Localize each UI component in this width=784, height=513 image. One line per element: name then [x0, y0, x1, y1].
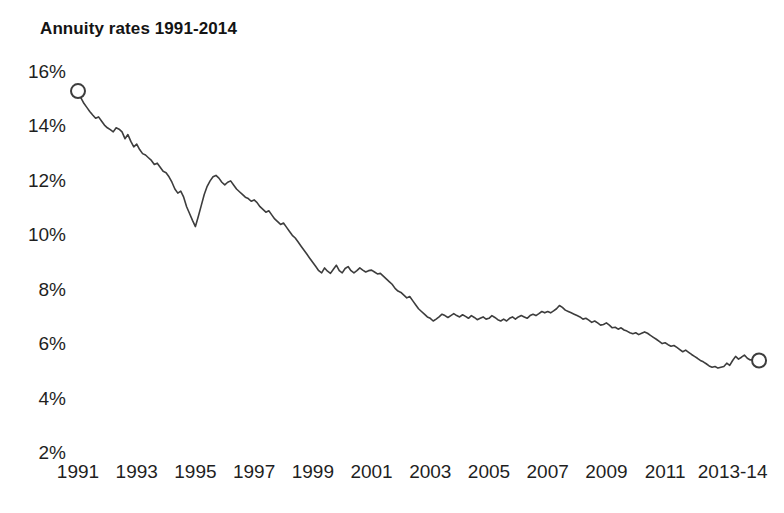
plot-area — [0, 0, 784, 513]
series-start-marker — [71, 84, 85, 98]
annuity-rates-chart: Annuity rates 1991-2014 16%14%12%10%8%6%… — [0, 0, 784, 513]
series-end-marker — [752, 353, 766, 367]
annuity-rate-line — [78, 91, 759, 368]
